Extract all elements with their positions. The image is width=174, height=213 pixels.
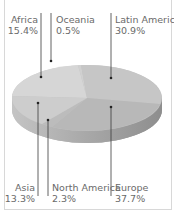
- pie-top: [12, 65, 162, 131]
- label-latin-america: Latin America 30.9%: [115, 14, 174, 36]
- label-oceania: Oceania 0.5%: [56, 14, 95, 36]
- label-europe: Europe 37.7%: [115, 182, 148, 204]
- slice-latin-america: [81, 65, 161, 104]
- slice-africa: [12, 65, 87, 98]
- label-north-america: North America 2.3%: [52, 182, 121, 204]
- label-asia: Asia 13.3%: [5, 182, 35, 204]
- label-africa: Africa 15.4%: [8, 14, 38, 36]
